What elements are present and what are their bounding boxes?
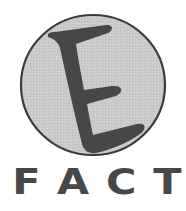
wordmark-letter-c: C xyxy=(106,164,136,200)
wordmark-letter-f: F xyxy=(12,164,40,200)
e-letter-emblem-icon xyxy=(0,0,186,160)
wordmark-letter-t: T xyxy=(154,164,182,200)
wordmark-fact: F A C T xyxy=(14,163,180,201)
wordmark-letter-a: A xyxy=(57,164,89,200)
fact-logo: F A C T xyxy=(0,0,186,211)
